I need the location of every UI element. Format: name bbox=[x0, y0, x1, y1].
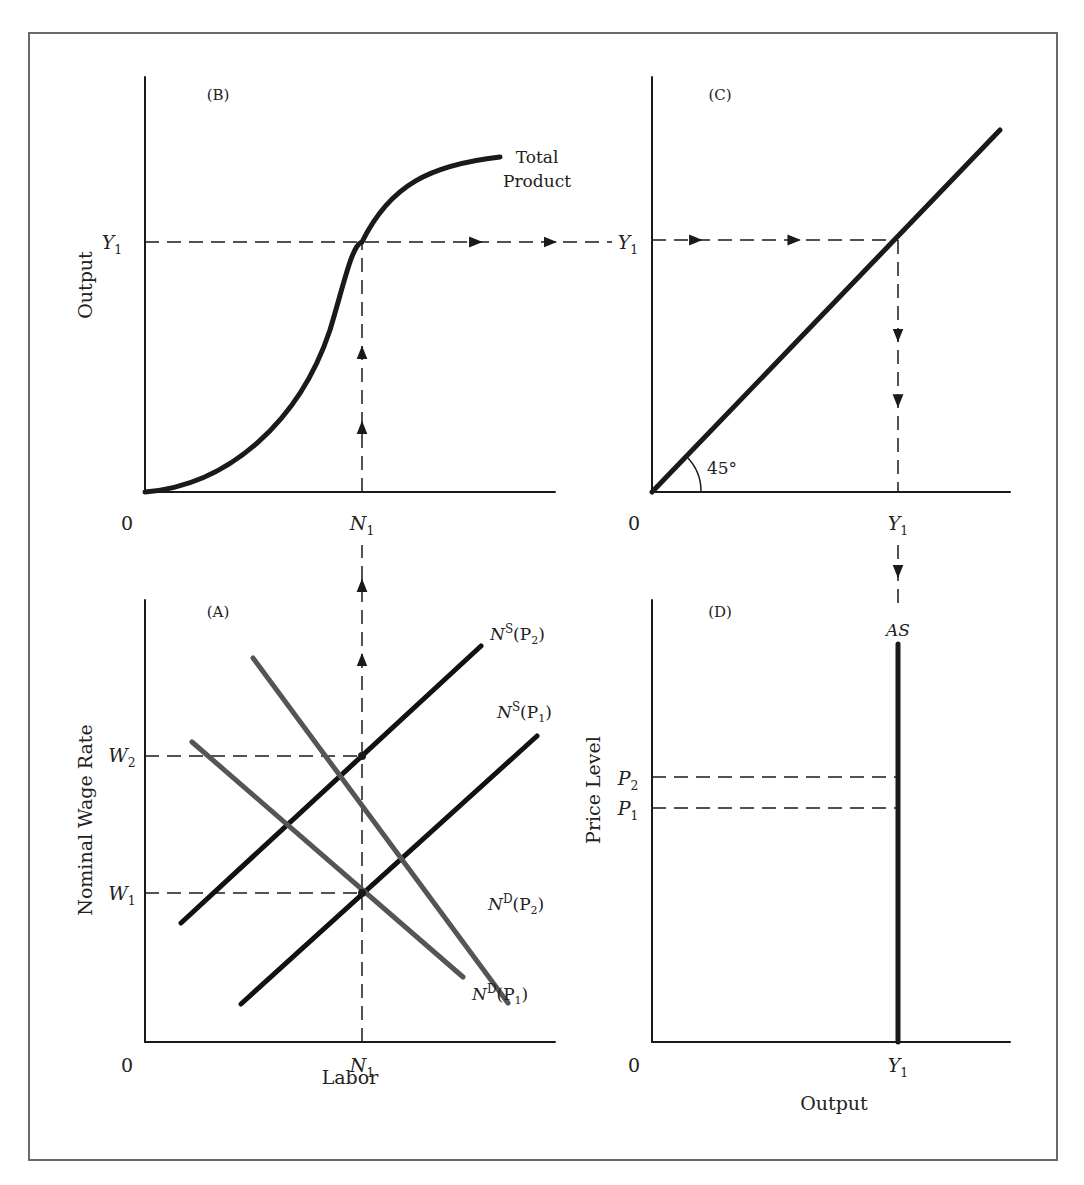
curve-label-ndp2: ND(P2) bbox=[487, 892, 544, 917]
as-curve-label: AS bbox=[884, 620, 910, 640]
panel-d-y1-tick: Y1 bbox=[888, 1054, 908, 1080]
panel-b-y1-tick: Y1 bbox=[102, 231, 122, 257]
total-product-label-line2: Product bbox=[503, 171, 571, 191]
panel-c-tag: (C) bbox=[708, 86, 731, 104]
total-product-curve bbox=[145, 157, 500, 492]
panel-c-origin-label: 0 bbox=[628, 512, 640, 534]
curve-nsp2 bbox=[181, 646, 481, 923]
forty-five-degree-line bbox=[652, 130, 1000, 492]
panel-a-tag: (A) bbox=[207, 603, 230, 621]
total-product-label-line1: Total bbox=[516, 147, 559, 167]
curve-nsp1 bbox=[241, 736, 537, 1004]
panel-b-origin-label: 0 bbox=[121, 512, 133, 534]
w2-tick: W2 bbox=[108, 744, 135, 770]
panel-a-y-axis-title: Nominal Wage Rate bbox=[74, 724, 96, 915]
panel-d-y-axis-title: Price Level bbox=[582, 736, 604, 844]
panel-a-origin-label: 0 bbox=[121, 1054, 133, 1076]
panel-b-tag: (B) bbox=[207, 86, 230, 104]
curve-label-nsp1: NS(P1) bbox=[496, 700, 552, 725]
w1-tick: W1 bbox=[108, 882, 135, 908]
panel-c-y1-y-tick: Y1 bbox=[618, 231, 638, 257]
panel-b-y-axis-title: Output bbox=[74, 251, 96, 319]
p1-tick: P1 bbox=[617, 797, 639, 823]
panel-d-origin-label: 0 bbox=[628, 1054, 640, 1076]
curve-label-ndp1: ND(P1) bbox=[471, 982, 528, 1007]
angle-arc-icon bbox=[687, 457, 701, 492]
figure-border bbox=[29, 33, 1057, 1160]
equilibrium-w2-point bbox=[358, 752, 366, 760]
panel-b-n1-tick: N1 bbox=[349, 512, 374, 538]
panel-d-tag: (D) bbox=[708, 603, 732, 621]
four-quadrant-as-derivation-diagram: (B)Output0N1Y1TotalProduct(C)0Y1Y145°(A)… bbox=[0, 0, 1084, 1185]
curve-label-nsp2: NS(P2) bbox=[489, 622, 545, 647]
angle-45-label: 45° bbox=[707, 458, 737, 478]
panel-d-x-axis-title: Output bbox=[800, 1092, 868, 1114]
equilibrium-w1-point bbox=[358, 889, 366, 897]
panel-c-y1-x-tick: Y1 bbox=[888, 512, 908, 538]
p2-tick: P2 bbox=[617, 767, 639, 793]
curve-ndp1 bbox=[192, 742, 463, 977]
